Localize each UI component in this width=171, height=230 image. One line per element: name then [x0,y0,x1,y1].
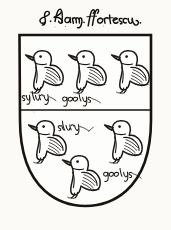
caption-inscription [40,9,141,28]
illustration-canvas [0,0,171,230]
heraldic-illustration-page: S. Hugh ffortescu Six birds, three in ch… [0,0,171,230]
coat-of-arms-shield [20,35,152,206]
